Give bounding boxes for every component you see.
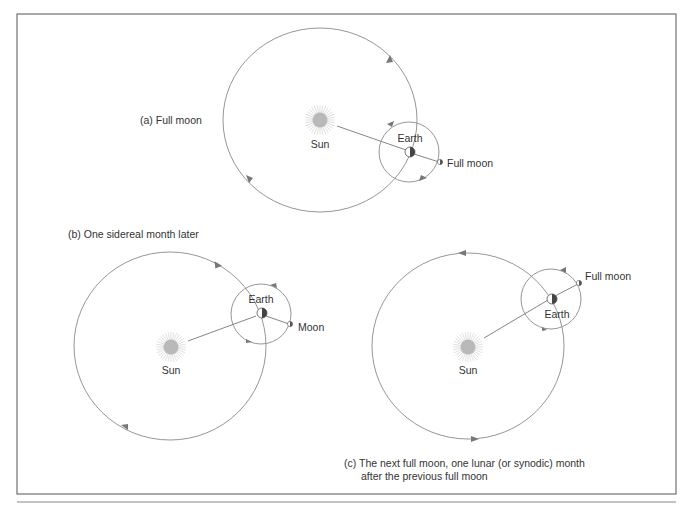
sun-earth-line	[337, 126, 406, 150]
panel-b-caption: (b) One sidereal month later	[68, 228, 199, 240]
panel-a-caption: (a) Full moon	[140, 114, 202, 126]
sun-label: Sun	[459, 364, 478, 376]
figure-frame	[17, 14, 676, 494]
sun-earth-line	[484, 300, 548, 338]
panel-c-caption-line1: (c) The next full moon, one lunar (or sy…	[344, 457, 585, 469]
moon-label: Moon	[298, 321, 324, 333]
orbit-arrow-icon	[246, 175, 253, 183]
sun-label: Sun	[311, 138, 330, 150]
orbit-arrow-icon	[419, 175, 427, 181]
sun-icon	[305, 105, 335, 135]
sun-icon	[453, 332, 483, 362]
orbit-arrow-icon	[560, 267, 566, 273]
earth-moon-line	[266, 316, 289, 324]
sun-earth-line	[188, 316, 256, 341]
orbit-arrow-icon	[387, 121, 394, 127]
orbit-arrow-icon	[213, 261, 222, 269]
earth-icon	[405, 147, 415, 157]
sun-icon	[156, 332, 186, 362]
earth-label: Earth	[544, 308, 569, 320]
panel-c-caption-line2: after the previous full moon	[361, 470, 488, 482]
moon-label: Full moon	[585, 270, 631, 282]
orbit-arrow-icon	[458, 250, 466, 256]
sun-label: Sun	[162, 364, 181, 376]
orbit-arrow-icon	[386, 55, 393, 63]
panel-c: Sun Earth Full moon (c) The next full mo…	[344, 250, 631, 482]
moon-label: Full moon	[447, 157, 493, 169]
earth-icon	[257, 308, 267, 318]
earth-label: Earth	[248, 293, 273, 305]
earth-moon-line	[414, 154, 439, 162]
moon-icon	[287, 321, 292, 326]
moon-icon	[576, 280, 581, 285]
earth-icon	[547, 294, 557, 304]
diagram-canvas: Sun Earth Full moon (a) Full moon (b) On…	[0, 0, 686, 509]
earth-label: Earth	[397, 132, 422, 144]
lunar-month-diagram: Sun Earth Full moon (a) Full moon (b) On…	[0, 0, 686, 509]
panel-b: (b) One sidereal month later Sun	[68, 228, 324, 440]
moon-icon	[437, 159, 442, 164]
orbit-arrow-icon	[471, 436, 479, 442]
panel-a: Sun Earth Full moon (a) Full moon	[140, 28, 493, 212]
earth-moon-line	[555, 284, 578, 296]
